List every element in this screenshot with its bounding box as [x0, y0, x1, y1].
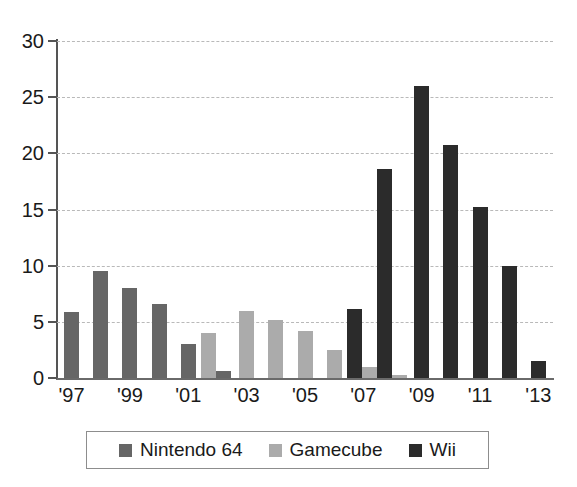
y-tick-mark: [48, 321, 57, 323]
gridline: [57, 153, 553, 154]
legend-label: Gamecube: [290, 440, 383, 460]
x-tick-label: '05: [292, 384, 318, 406]
plot-area: [57, 41, 553, 378]
y-tick-label-wrap: 15: [0, 200, 44, 220]
bar: [216, 371, 231, 378]
bar: [122, 288, 137, 378]
gridline: [57, 97, 553, 98]
bar: [152, 304, 167, 378]
y-tick-mark: [48, 40, 57, 42]
chart-legend: Nintendo 64GamecubeWii: [86, 431, 489, 469]
legend-label: Wii: [430, 440, 456, 460]
y-tick-label: 30: [4, 31, 44, 51]
x-tick-label: '09: [409, 384, 435, 406]
y-tick-label: 20: [4, 143, 44, 163]
bar: [64, 312, 79, 378]
legend-item[interactable]: Gamecube: [269, 440, 383, 460]
y-tick-label-wrap: 20: [0, 143, 44, 163]
y-tick-mark: [48, 152, 57, 154]
y-tick-label: 15: [4, 200, 44, 220]
legend-swatch-icon: [119, 444, 132, 457]
legend-label: Nintendo 64: [140, 440, 242, 460]
bar: [268, 320, 283, 378]
bar: [443, 145, 458, 378]
y-tick-label-wrap: 5: [0, 312, 44, 332]
bar: [93, 271, 108, 378]
y-tick-mark: [48, 209, 57, 211]
y-tick-label-wrap: 30: [0, 31, 44, 51]
y-tick-label-wrap: 0: [0, 368, 44, 388]
bar: [181, 344, 196, 378]
x-tick-label: '03: [234, 384, 260, 406]
y-tick-mark: [48, 96, 57, 98]
gridline: [57, 41, 553, 42]
y-tick-mark: [48, 265, 57, 267]
bar: [239, 311, 254, 378]
x-axis-line: [56, 378, 554, 380]
bar-chart: 051015202530 '97'99'01'03'05'07'09'11'13…: [0, 0, 577, 487]
bar: [377, 169, 392, 378]
bar: [414, 86, 429, 378]
bar: [298, 331, 313, 378]
bar: [362, 367, 377, 378]
x-tick-label: '97: [59, 384, 85, 406]
x-tick-label: '11: [468, 384, 493, 406]
x-tick-label: '01: [175, 384, 201, 406]
legend-item[interactable]: Wii: [409, 440, 456, 460]
x-tick-label: '07: [350, 384, 376, 406]
y-tick-label: 0: [4, 368, 44, 388]
bar: [347, 309, 362, 378]
bar: [327, 350, 342, 378]
x-tick-label: '99: [117, 384, 143, 406]
legend-swatch-icon: [269, 444, 282, 457]
y-tick-label-wrap: 10: [0, 256, 44, 276]
legend-swatch-icon: [409, 444, 422, 457]
y-tick-label: 25: [4, 87, 44, 107]
y-tick-label-wrap: 25: [0, 87, 44, 107]
x-tick-label: '13: [525, 384, 551, 406]
y-tick-label: 5: [4, 312, 44, 332]
bar: [201, 333, 216, 378]
bar: [531, 361, 546, 378]
bar: [502, 266, 517, 378]
legend-item[interactable]: Nintendo 64: [119, 440, 242, 460]
bar: [473, 207, 488, 378]
y-tick-mark: [48, 377, 57, 379]
bar: [392, 375, 407, 378]
y-tick-label: 10: [4, 256, 44, 276]
